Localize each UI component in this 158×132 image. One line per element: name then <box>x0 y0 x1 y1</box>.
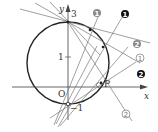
x-axis-label: x <box>144 91 149 101</box>
tag-gray-2-text: 2 <box>135 41 140 49</box>
tag-black-2: 2 <box>137 70 145 79</box>
point-p-label: P <box>104 79 110 89</box>
geometry-diagram: y x O 3 1 −1 P 1 1 2 1 2 2 <box>0 0 158 132</box>
line-top-1 <box>20 9 150 43</box>
origin-label: O <box>58 89 65 99</box>
tag-outline-2: 2 <box>122 110 130 119</box>
line-bot-5 <box>60 47 128 126</box>
point-p <box>100 82 103 85</box>
tick-label-neg1: −1 <box>70 103 83 113</box>
tick-label-3: 3 <box>71 9 77 19</box>
x-axis-arrow <box>140 85 148 90</box>
tag-gray-1-text: 1 <box>95 10 100 18</box>
tag-black-2-text: 2 <box>139 71 144 79</box>
y-axis-label: y <box>58 4 65 14</box>
point-tangent-2 <box>102 46 105 49</box>
tag-outline-2-text: 2 <box>124 111 128 119</box>
tag-gray-1: 1 <box>93 9 101 18</box>
tag-black-1: 1 <box>121 10 129 19</box>
tag-gray-2: 2 <box>133 40 141 49</box>
tag-outline-1-text: 1 <box>138 55 142 63</box>
point-top <box>66 20 69 23</box>
point-tangent-1 <box>89 29 92 32</box>
y-axis-arrow <box>66 4 71 12</box>
tick-label-1: 1 <box>58 52 64 62</box>
tag-black-1-text: 1 <box>123 11 128 19</box>
tag-outline-1: 1 <box>136 54 144 63</box>
